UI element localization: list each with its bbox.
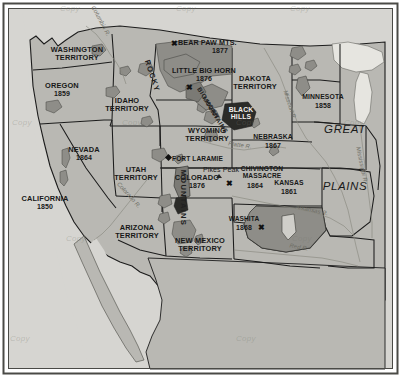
map-container: Copy Copy Copy Copy Copy Copy Copy Copy …	[0, 0, 401, 377]
map-graphic	[0, 0, 401, 377]
mexico-landmass	[146, 258, 385, 369]
peak-marker-icon-pikes-peak	[216, 174, 222, 178]
